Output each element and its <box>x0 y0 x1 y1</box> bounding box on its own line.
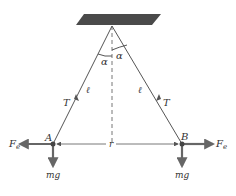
fe-right-label: Fe <box>215 138 227 151</box>
tension-arrow-right-icon <box>156 94 161 101</box>
point-a-label: A <box>44 132 52 143</box>
alpha-left-label: α <box>101 56 108 67</box>
length-left-label: ℓ <box>86 85 90 95</box>
tension-left-label: T <box>63 97 71 108</box>
alpha-right-label: α <box>116 50 123 61</box>
string-left <box>53 26 112 144</box>
fe-left-sub: e <box>16 143 20 151</box>
string-right <box>112 26 182 144</box>
pendulum-diagram: α α ℓ ℓ T T A B r Fe Fe mg mg <box>0 0 236 196</box>
ceiling-support <box>76 14 161 25</box>
separation-label: r <box>109 139 114 149</box>
mg-right-label: mg <box>175 170 190 180</box>
fe-left-label: Fe <box>8 138 20 151</box>
tension-right-label: T <box>163 97 171 108</box>
mass-b <box>180 142 185 147</box>
fe-right-sub: e <box>223 143 227 151</box>
point-b-label: B <box>180 131 188 142</box>
length-right-label: ℓ <box>138 85 142 95</box>
mg-left-label: mg <box>46 170 61 180</box>
